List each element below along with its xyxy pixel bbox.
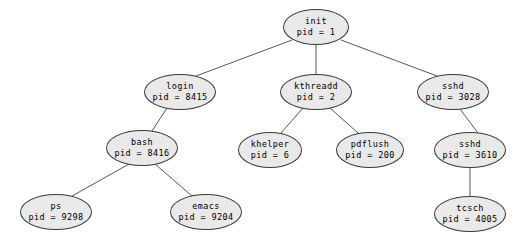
edge-bash-to-emacs xyxy=(155,164,192,196)
process-pid: pid = 8416 xyxy=(114,148,169,159)
process-node-sshd3028[interactable]: sshdpid = 3028 xyxy=(417,74,489,110)
process-name: pdflush xyxy=(351,139,390,150)
edge-sshd3028-to-sshd3610 xyxy=(460,109,478,133)
process-pid: pid = 1 xyxy=(297,27,336,38)
process-name: kthreadd xyxy=(294,81,338,92)
process-pid: pid = 3610 xyxy=(442,150,497,161)
edge-login-to-bash xyxy=(152,108,167,131)
process-node-sshd3610[interactable]: sshdpid = 3610 xyxy=(434,132,506,168)
process-node-ps[interactable]: pspid = 9298 xyxy=(20,194,92,230)
process-tree-diagram: initpid = 1loginpid = 8415kthreaddpid = … xyxy=(0,0,525,245)
process-name: init xyxy=(305,16,327,27)
process-name: login xyxy=(166,81,194,92)
process-name: khelper xyxy=(251,139,290,150)
process-name: tcsch xyxy=(456,203,484,214)
process-name: sshd xyxy=(442,81,464,92)
process-pid: pid = 8415 xyxy=(152,92,207,103)
process-node-pdflush[interactable]: pdflushpid = 200 xyxy=(336,132,404,168)
edge-init-to-login xyxy=(196,40,292,76)
process-pid: pid = 4005 xyxy=(442,214,497,225)
process-node-bash[interactable]: bashpid = 8416 xyxy=(106,130,178,166)
process-pid: pid = 3028 xyxy=(425,92,480,103)
process-name: bash xyxy=(131,137,153,148)
process-pid: pid = 2 xyxy=(297,92,336,103)
process-node-khelper[interactable]: khelperpid = 6 xyxy=(238,132,302,168)
edge-kthreadd-to-pdflush xyxy=(330,108,358,133)
process-node-tcsch[interactable]: tcschpid = 4005 xyxy=(434,196,506,232)
edge-kthreadd-to-khelper xyxy=(281,108,303,133)
process-pid: pid = 9204 xyxy=(178,212,233,223)
process-node-emacs[interactable]: emacspid = 9204 xyxy=(170,194,242,230)
process-name: sshd xyxy=(459,139,481,150)
edge-init-to-sshd3028 xyxy=(341,40,437,76)
process-pid: pid = 9298 xyxy=(28,212,83,223)
edge-bash-to-ps xyxy=(72,164,129,196)
process-pid: pid = 6 xyxy=(251,150,290,161)
process-node-init[interactable]: initpid = 1 xyxy=(283,9,349,45)
process-name: emacs xyxy=(192,201,220,212)
process-name: ps xyxy=(50,201,61,212)
process-pid: pid = 200 xyxy=(345,150,395,161)
process-node-login[interactable]: loginpid = 8415 xyxy=(144,74,216,110)
process-node-kthreadd[interactable]: kthreaddpid = 2 xyxy=(280,74,352,110)
